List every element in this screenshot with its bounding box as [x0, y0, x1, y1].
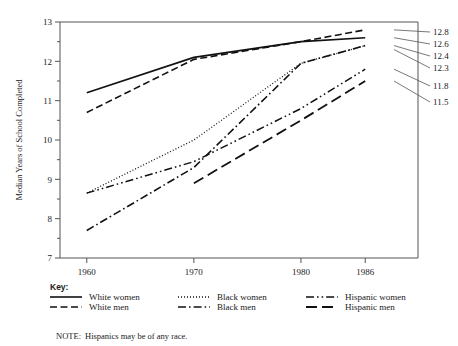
x-tick-label: 1960 — [78, 267, 97, 277]
end-label-leader — [394, 38, 430, 44]
legend-swatch-line — [306, 302, 338, 312]
y-tick-label: 8 — [48, 214, 53, 224]
legend-item-label: Hispanic women — [345, 292, 406, 302]
legend-rows: White womenBlack womenHispanic womenWhit… — [50, 292, 450, 312]
legend-swatch-line — [50, 292, 82, 302]
legend-row: White menBlack menHispanic men — [50, 302, 450, 312]
y-tick-label: 9 — [48, 175, 53, 185]
series-line-hispanic-women — [87, 69, 365, 193]
legend-item-label: White men — [89, 302, 129, 312]
legend-swatch-line — [178, 292, 210, 302]
y-tick-label: 7 — [48, 253, 53, 263]
end-label-leader — [394, 50, 430, 68]
legend-swatch-icon — [306, 292, 338, 302]
series-line-black-men — [87, 46, 365, 231]
legend-swatch-line — [178, 302, 210, 312]
end-label-leader — [394, 46, 430, 56]
end-label-leader — [394, 30, 430, 32]
legend-title: Key: — [50, 282, 450, 292]
end-value-label: 11.8 — [433, 81, 449, 91]
legend-item-black-women: Black women — [178, 292, 306, 302]
end-label-leader — [394, 81, 430, 102]
x-tick-label: 1980 — [292, 267, 311, 277]
end-value-label: 11.5 — [433, 97, 449, 107]
chart-legend: Key: White womenBlack womenHispanic wome… — [50, 282, 450, 312]
end-value-label: 12.4 — [433, 51, 449, 61]
x-tick-label: 1986 — [356, 267, 375, 277]
legend-swatch-line — [50, 302, 82, 312]
y-tick-label: 13 — [43, 17, 53, 27]
legend-swatch-line — [306, 292, 338, 302]
legend-swatch-icon — [50, 292, 82, 302]
legend-item-label: Black women — [217, 292, 267, 302]
legend-swatch-icon — [178, 302, 210, 312]
chart-figure: 789101112131960197019801986Median Years … — [0, 0, 458, 346]
end-value-label: 12.3 — [433, 63, 449, 73]
legend-swatch-icon — [306, 302, 338, 312]
legend-item-hispanic-men: Hispanic men — [306, 302, 434, 312]
end-value-label: 12.8 — [433, 27, 449, 37]
y-axis-title: Median Years of School Completed — [14, 79, 24, 201]
y-tick-label: 11 — [43, 96, 52, 106]
legend-item-white-men: White men — [50, 302, 178, 312]
series-line-white-men — [87, 30, 365, 113]
footnote-text: Hispanics may be of any race. — [85, 331, 187, 341]
legend-item-black-men: Black men — [178, 302, 306, 312]
legend-swatch-icon — [50, 302, 82, 312]
x-tick-label: 1970 — [185, 267, 204, 277]
line-chart-canvas: 789101112131960197019801986Median Years … — [0, 0, 458, 282]
footnote-prefix: NOTE: — [56, 331, 81, 341]
legend-item-label: Hispanic men — [345, 302, 395, 312]
legend-item-label: Black men — [217, 302, 256, 312]
legend-item-white-women: White women — [50, 292, 178, 302]
end-value-label: 12.6 — [433, 39, 449, 49]
legend-row: White womenBlack womenHispanic women — [50, 292, 450, 302]
y-tick-label: 10 — [43, 135, 53, 145]
legend-swatch-icon — [178, 292, 210, 302]
end-label-leader — [394, 69, 430, 86]
series-line-hispanic-men — [194, 81, 365, 183]
legend-item-label: White women — [89, 292, 140, 302]
chart-footnote: NOTE: Hispanics may be of any race. — [56, 325, 187, 343]
series-line-white-women — [87, 38, 365, 93]
legend-item-hispanic-women: Hispanic women — [306, 292, 434, 302]
series-line-black-women — [87, 46, 365, 194]
y-tick-label: 12 — [43, 57, 52, 67]
